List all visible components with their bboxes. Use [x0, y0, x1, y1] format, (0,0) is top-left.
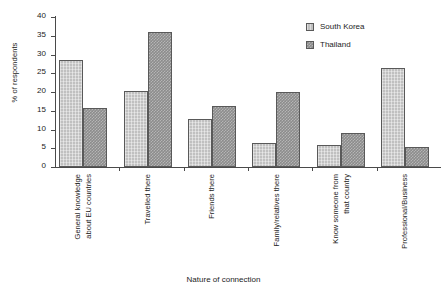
y-tick-label: 10	[37, 124, 46, 133]
bar-thailand[interactable]	[212, 106, 236, 167]
y-tick-label: 20	[37, 86, 46, 95]
legend-swatch-thailand	[306, 41, 314, 49]
y-tick-label: 40	[37, 11, 46, 20]
bar-south-korea[interactable]	[188, 119, 212, 167]
bar-chart-figure: % of respondents 0510152025303540 Genera…	[0, 0, 447, 295]
legend-swatch-south-korea	[306, 23, 314, 31]
legend-item-thailand[interactable]: Thailand	[306, 37, 364, 52]
bar-south-korea[interactable]	[317, 145, 341, 167]
x-axis-title: Nature of connection	[0, 275, 447, 284]
x-axis-separator-tick	[377, 167, 378, 171]
bar-thailand[interactable]	[148, 32, 172, 167]
x-axis-category-label: Professional/Business	[399, 174, 410, 274]
x-axis-category-label: that country	[341, 174, 352, 274]
bar-thailand[interactable]	[405, 147, 429, 167]
legend-label-thailand: Thailand	[320, 40, 351, 49]
y-tick-label: 15	[37, 105, 46, 114]
chart-legend: South Korea Thailand	[306, 19, 364, 55]
bar-group	[252, 17, 300, 167]
y-tick-label: 25	[37, 67, 46, 76]
x-axis-separator-tick	[184, 167, 185, 171]
y-axis-title: % of respondents	[10, 13, 19, 133]
x-axis-category-label: Family/relatives there	[271, 174, 282, 274]
y-tick-label: 0	[42, 161, 46, 170]
bar-group	[59, 17, 107, 167]
x-axis-separator-tick	[119, 167, 120, 171]
bar-thailand[interactable]	[341, 133, 365, 167]
bar-group	[188, 17, 236, 167]
x-axis-separator-tick	[312, 167, 313, 171]
legend-item-south-korea[interactable]: South Korea	[306, 19, 364, 34]
x-axis-category-label: Friends there	[206, 174, 217, 274]
y-tick-label: 35	[37, 30, 46, 39]
legend-label-south-korea: South Korea	[320, 22, 364, 31]
x-axis-category-label: Travelled there	[142, 174, 153, 274]
bar-south-korea[interactable]	[252, 143, 276, 167]
x-axis-category-label: about EU countries	[83, 174, 94, 274]
bar-thailand[interactable]	[83, 108, 107, 167]
y-tick-mark	[51, 167, 55, 168]
y-tick-label: 30	[37, 49, 46, 58]
bar-group	[381, 17, 429, 167]
bar-south-korea[interactable]	[59, 60, 83, 167]
bar-group	[124, 17, 172, 167]
bar-thailand[interactable]	[276, 92, 300, 167]
plot-area	[55, 17, 441, 167]
x-axis-separator-tick	[248, 167, 249, 171]
bar-south-korea[interactable]	[381, 68, 405, 167]
x-axis-category-label: General knowledge	[72, 174, 83, 274]
x-axis-category-label: Know someone from	[330, 174, 341, 274]
bar-south-korea[interactable]	[124, 91, 148, 167]
y-tick-label: 5	[42, 142, 46, 151]
